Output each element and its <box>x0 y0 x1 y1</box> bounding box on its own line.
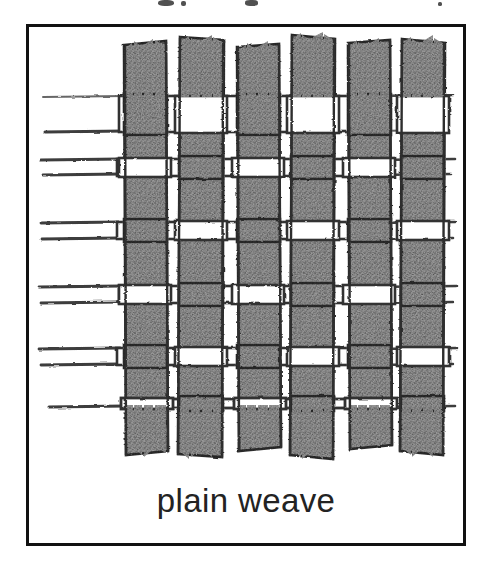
warp-over-weft <box>179 156 223 179</box>
weft-over-warp <box>287 96 339 133</box>
weft-over-warp <box>175 347 227 366</box>
clipped-text-fragment <box>245 0 258 6</box>
weft-over-warp <box>175 96 227 133</box>
figure-caption: plain weave <box>29 482 463 520</box>
weft-over-warp <box>119 158 171 177</box>
warp-over-weft <box>237 345 280 368</box>
weft-over-warp <box>397 96 449 133</box>
clipped-text-fragment <box>181 1 186 6</box>
warp-over-weft <box>401 283 444 306</box>
weft-over-warp <box>397 347 449 366</box>
clipped-text-fragment <box>158 0 174 6</box>
warp-over-weft <box>291 156 334 179</box>
warp-over-weft <box>124 345 167 368</box>
clipped-text-fragment <box>438 2 442 6</box>
warp-over-weft <box>124 219 167 242</box>
figure-frame: plain weave <box>26 24 466 546</box>
weft-over-warp <box>287 221 339 240</box>
warp-over-weft <box>179 283 223 306</box>
warp-over-weft <box>401 156 444 179</box>
weave-illustration <box>29 27 463 467</box>
warp-over-weft <box>291 283 334 306</box>
weft-over-warp <box>397 221 449 240</box>
clipped-top-text <box>0 0 482 14</box>
warp-over-weft <box>348 345 391 368</box>
warp-over-weft <box>124 94 167 135</box>
warp-over-weft <box>237 94 280 135</box>
warp-over-weft <box>348 94 391 135</box>
weft-over-warp <box>287 347 339 366</box>
weft-over-warp <box>343 158 395 177</box>
weft-over-warp <box>232 158 284 177</box>
weft-over-warp <box>175 221 227 240</box>
warp-over-weft <box>237 219 280 242</box>
plain-weave-drawing <box>29 27 463 467</box>
page-root: plain weave <box>0 0 482 570</box>
warp-over-weft <box>348 219 391 242</box>
